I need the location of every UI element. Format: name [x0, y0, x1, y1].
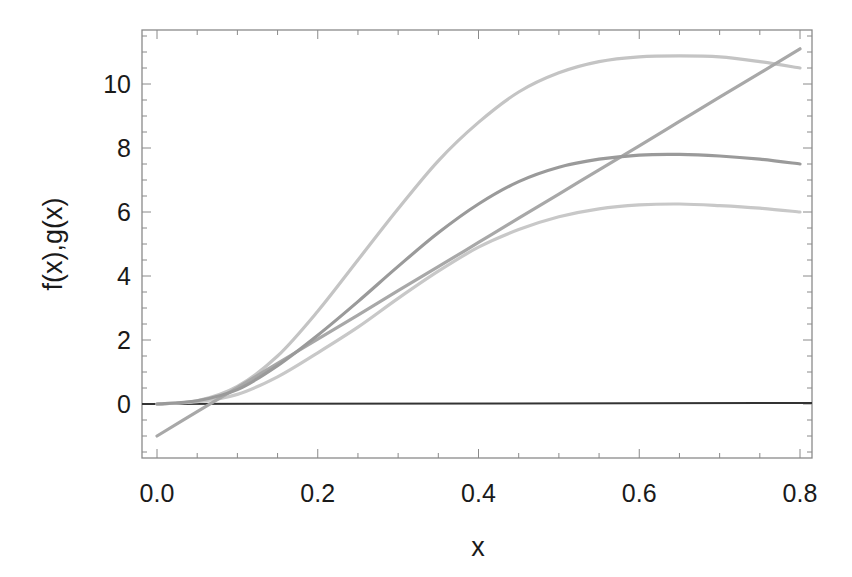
x-tick-label: 0.2	[300, 479, 335, 507]
x-axis-title: x	[471, 532, 485, 562]
y-tick-label: 4	[117, 262, 131, 290]
series-line	[157, 49, 800, 436]
x-tick-label: 0.4	[461, 479, 496, 507]
chart: 0.00.20.40.60.8 0246810 x f(x),g(x)	[0, 0, 852, 577]
zero-line	[142, 403, 812, 404]
x-tick-labels: 0.00.20.40.60.8	[140, 479, 818, 507]
data-series	[142, 49, 812, 436]
y-tick-labels: 0246810	[103, 70, 131, 418]
y-tick-label: 6	[117, 198, 131, 226]
y-tick-label: 2	[117, 326, 131, 354]
y-tick-label: 0	[117, 390, 131, 418]
y-tick-label: 10	[103, 70, 131, 98]
x-tick-label: 0.6	[622, 479, 657, 507]
series-line	[157, 204, 800, 404]
x-tick-label: 0.0	[140, 479, 175, 507]
x-tick-label: 0.8	[783, 479, 818, 507]
y-axis-title: f(x),g(x)	[38, 198, 68, 291]
y-tick-label: 8	[117, 134, 131, 162]
series-line	[157, 154, 800, 404]
